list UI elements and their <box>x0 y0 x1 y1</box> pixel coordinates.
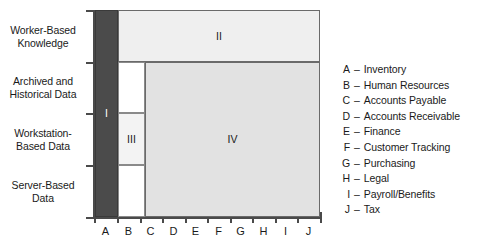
legend-dash: – <box>350 124 364 140</box>
legend-key: G <box>338 156 350 172</box>
y-axis-tick <box>86 62 94 64</box>
legend-key: F <box>338 140 350 156</box>
legend-name: Tax <box>364 202 380 218</box>
row-label-line1: Worker-Based <box>0 24 86 37</box>
matrix-cell-empty <box>118 62 145 113</box>
x-axis-tick <box>320 212 322 223</box>
column-label-h: H <box>252 225 275 238</box>
row-label-line2: Based Data <box>0 140 86 153</box>
legend-item-d: D – Accounts Receivable <box>338 109 477 125</box>
row-label-line1: Archived and <box>0 75 86 88</box>
legend-name: Human Resources <box>364 78 449 94</box>
legend-name: Finance <box>364 124 401 140</box>
matrix-cell-empty <box>118 165 145 217</box>
legend-key: E <box>338 124 350 140</box>
column-label-i: I <box>274 225 297 238</box>
region-two: II <box>118 10 320 62</box>
row-label-line1: Server-Based <box>0 179 86 192</box>
legend: A – Inventory B – Human Resources C – Ac… <box>338 62 477 218</box>
matrix-plot-area: II IV III I <box>95 10 320 217</box>
column-label-c: C <box>139 225 162 238</box>
row-label-line1: Workstation- <box>0 127 86 140</box>
legend-dash: – <box>350 187 364 203</box>
legend-dash: – <box>350 156 364 172</box>
region-three: III <box>118 113 145 165</box>
legend-key: A <box>338 62 350 78</box>
legend-name: Legal <box>364 171 389 187</box>
legend-key: B <box>338 78 350 94</box>
row-axis-labels: Worker-Based Knowledge Archived and Hist… <box>0 10 86 217</box>
column-label-a: A <box>94 225 117 238</box>
legend-name: Customer Tracking <box>364 140 450 156</box>
region-four: IV <box>145 62 320 217</box>
legend-item-b: B – Human Resources <box>338 78 477 94</box>
y-axis-tick <box>86 113 94 115</box>
legend-item-i: I – Payroll/Benefits <box>338 187 477 203</box>
row-label-workstation-based-data: Workstation- Based Data <box>0 127 86 153</box>
legend-dash: – <box>350 62 364 78</box>
legend-name: Purchasing <box>364 156 416 172</box>
column-label-d: D <box>162 225 185 238</box>
column-label-f: F <box>207 225 230 238</box>
column-label-b: B <box>117 225 140 238</box>
legend-dash: – <box>350 78 364 94</box>
legend-dash: – <box>350 109 364 125</box>
row-label-line2: Historical Data <box>0 88 86 101</box>
legend-key: H <box>338 171 350 187</box>
legend-item-g: G – Purchasing <box>338 156 477 172</box>
legend-item-e: E – Finance <box>338 124 477 140</box>
legend-item-a: A – Inventory <box>338 62 477 78</box>
legend-item-c: C – Accounts Payable <box>338 93 477 109</box>
legend-name: Accounts Payable <box>364 93 446 109</box>
legend-item-f: F – Customer Tracking <box>338 140 477 156</box>
region-one-label: I <box>105 108 108 119</box>
row-label-server-based-data: Server-Based Data <box>0 179 86 205</box>
legend-key: I <box>338 187 350 203</box>
region-one: I <box>95 10 118 217</box>
legend-dash: – <box>350 202 364 218</box>
row-label-worker-based-knowledge: Worker-Based Knowledge <box>0 24 86 50</box>
y-axis-tick <box>86 165 94 167</box>
legend-dash: – <box>350 171 364 187</box>
legend-key: J <box>338 202 350 218</box>
legend-dash: – <box>350 140 364 156</box>
region-three-label: III <box>127 134 136 145</box>
legend-name: Accounts Receivable <box>364 109 460 125</box>
legend-dash: – <box>350 93 364 109</box>
column-label-e: E <box>184 225 207 238</box>
column-label-g: G <box>229 225 252 238</box>
legend-name: Payroll/Benefits <box>364 187 435 203</box>
row-label-archived-and-historical-data: Archived and Historical Data <box>0 75 86 101</box>
row-label-line2: Knowledge <box>0 37 86 50</box>
legend-key: C <box>338 93 350 109</box>
column-label-j: J <box>297 225 320 238</box>
region-two-label: II <box>216 31 222 42</box>
row-label-line2: Data <box>0 192 86 205</box>
legend-item-j: J – Tax <box>338 202 477 218</box>
legend-key: D <box>338 109 350 125</box>
legend-name: Inventory <box>364 62 406 78</box>
y-axis-tick <box>86 10 94 12</box>
legend-item-h: H – Legal <box>338 171 477 187</box>
region-four-label: IV <box>228 134 238 145</box>
